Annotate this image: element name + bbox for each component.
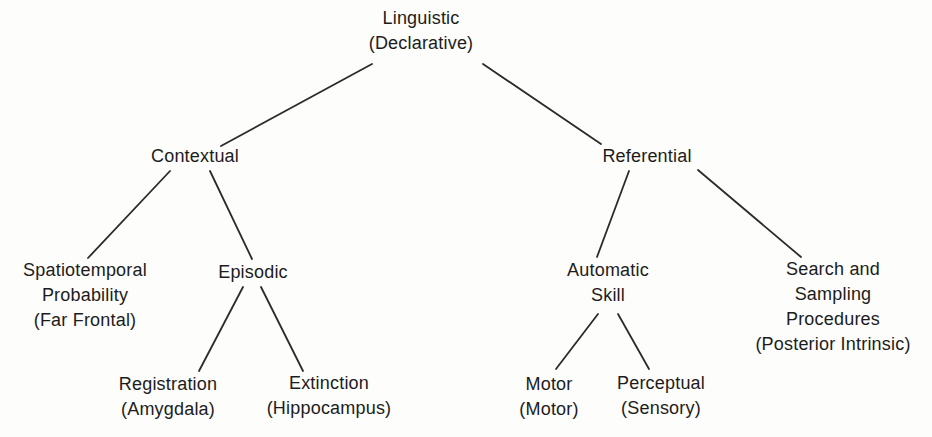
edge-linguistic-contextual <box>221 64 372 146</box>
node-referential-label: Referential <box>602 144 691 169</box>
node-motor: Motor (Motor) <box>519 372 578 422</box>
node-referential: Referential <box>602 144 691 169</box>
node-search-sampling-line4: (Posterior Intrinsic) <box>755 332 910 357</box>
edge-referential-automatic <box>597 171 629 257</box>
node-extinction-line1: Extinction <box>267 371 392 396</box>
node-perceptual: Perceptual (Sensory) <box>617 371 705 421</box>
node-motor-line1: Motor <box>519 372 578 397</box>
edge-automatic-perceptual <box>618 314 649 369</box>
node-search-sampling-line1: Search and <box>755 257 910 282</box>
node-linguistic-line1: Linguistic <box>369 6 474 31</box>
node-spatiotemporal-line1: Spatiotemporal <box>23 258 147 283</box>
node-spatiotemporal-line3: (Far Frontal) <box>23 308 147 333</box>
node-registration: Registration (Amygdala) <box>119 372 217 422</box>
node-search-sampling-line2: Sampling <box>755 282 910 307</box>
edge-contextual-spatiotemporal <box>88 171 170 258</box>
edge-contextual-episodic <box>210 171 252 259</box>
node-registration-line2: (Amygdala) <box>119 397 217 422</box>
node-perceptual-line1: Perceptual <box>617 371 705 396</box>
node-contextual-label: Contextual <box>151 144 239 169</box>
node-extinction-line2: (Hippocampus) <box>267 396 392 421</box>
node-motor-line2: (Motor) <box>519 397 578 422</box>
node-registration-line1: Registration <box>119 372 217 397</box>
node-extinction: Extinction (Hippocampus) <box>267 371 392 421</box>
edge-episodic-extinction <box>261 287 303 371</box>
node-episodic-label: Episodic <box>218 260 288 285</box>
edge-referential-search <box>698 170 801 257</box>
node-contextual: Contextual <box>151 144 239 169</box>
edge-automatic-motor <box>556 314 598 369</box>
node-search-sampling: Search and Sampling Procedures (Posterio… <box>755 257 910 357</box>
edge-episodic-registration <box>199 287 243 371</box>
node-automatic-skill-line1: Automatic <box>567 258 649 283</box>
node-automatic-skill-line2: Skill <box>567 283 649 308</box>
node-spatiotemporal: Spatiotemporal Probability (Far Frontal) <box>23 258 147 333</box>
node-episodic: Episodic <box>218 260 288 285</box>
tree-diagram: Linguistic (Declarative) Contextual Refe… <box>0 0 932 437</box>
node-search-sampling-line3: Procedures <box>755 307 910 332</box>
node-linguistic-line2: (Declarative) <box>369 31 474 56</box>
node-spatiotemporal-line2: Probability <box>23 283 147 308</box>
edge-linguistic-referential <box>483 64 601 144</box>
node-linguistic: Linguistic (Declarative) <box>369 6 474 56</box>
node-automatic-skill: Automatic Skill <box>567 258 649 308</box>
node-perceptual-line2: (Sensory) <box>617 396 705 421</box>
